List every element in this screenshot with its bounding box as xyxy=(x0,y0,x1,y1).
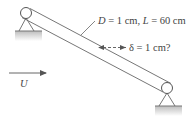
leader-line xyxy=(81,21,95,35)
right-pin-support xyxy=(155,83,182,117)
flow-velocity-label: U xyxy=(20,78,29,89)
left-pin-icon xyxy=(21,8,32,19)
deflection-arrow-head-right xyxy=(120,45,126,50)
deflection-label: δ = 1 cm? xyxy=(129,42,171,53)
beam-diagram: D = 1 cm, L = 60 cm δ = 1 cm? U xyxy=(0,0,190,120)
left-ground xyxy=(15,31,42,41)
right-pin-icon xyxy=(162,83,173,94)
dimensions-label: D = 1 cm, L = 60 cm xyxy=(97,15,186,26)
right-ground xyxy=(155,106,182,116)
